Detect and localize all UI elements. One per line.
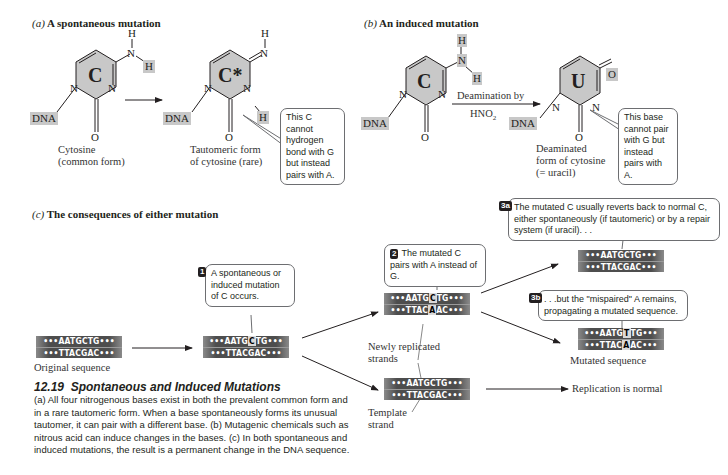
cytosine-caption: Cytosine (common form)	[58, 144, 125, 168]
figure-title: Spontaneous and Induced Mutations	[71, 380, 281, 394]
atom-h: H	[261, 28, 269, 39]
caption-line: Cytosine	[58, 144, 125, 156]
replication-normal-label: Replication is normal	[572, 383, 662, 395]
strand-bottom: •••TTACAAC•••	[384, 304, 470, 315]
tautomer-caption: Tautomeric form of cytosine (rare)	[190, 144, 262, 168]
mutated-base: C	[429, 293, 437, 303]
caption-line: form of cytosine	[536, 155, 605, 167]
atom-h-highlight: H	[143, 60, 155, 73]
strand-top: •••AATGCTG•••	[384, 378, 470, 389]
dna-tag: DNA	[163, 112, 191, 125]
panel-a-label: (a)	[32, 17, 45, 29]
dna-strand-mutated: •••AATGTTG••• •••TTACAAC•••	[578, 328, 664, 350]
atom-n: N	[592, 102, 600, 113]
strand-bottom: •••TTACGAC•••	[384, 389, 470, 400]
label-line: Newly replicated	[368, 341, 440, 353]
atom-o-highlight: O	[606, 68, 618, 81]
atom-n: N	[204, 83, 212, 94]
label-line: Template	[368, 407, 407, 419]
atom-n: N	[243, 83, 251, 94]
panel-a-title: (a) A spontaneous mutation	[32, 17, 161, 29]
figure-number: 12.19	[34, 380, 64, 394]
mutated-base: C	[248, 336, 256, 346]
panel-a-title-text: A spontaneous mutation	[47, 17, 161, 29]
caption-line: Deaminated	[536, 143, 605, 155]
ring-letter-c: C	[417, 70, 431, 93]
atom-n: N	[108, 83, 116, 94]
subscript-2: 2	[493, 114, 497, 122]
strand-bottom: •••TTACGAC•••	[203, 347, 289, 358]
ring-letter-c: C	[88, 64, 102, 87]
arrow-label-deamination: Deamination by	[457, 90, 524, 102]
figure-caption: 12.19 Spontaneous and Induced Mutations …	[34, 380, 354, 457]
callout-step-3b: 3b . . .but the "mispaired" A remains, p…	[538, 290, 688, 321]
newly-replicated-label: Newly replicated strands	[368, 341, 440, 365]
strand-bottom: •••TTACGAC•••	[36, 347, 122, 358]
ring-letter-u: U	[571, 70, 585, 93]
atom-o: O	[225, 132, 233, 143]
arrow-label-hno2: HNO2	[470, 108, 496, 124]
dna-strand-template: •••AATGCTG••• •••TTACGAC•••	[384, 378, 470, 400]
strand-top: •••AATGCTG•••	[578, 250, 664, 261]
caption-line: Tautomeric form	[190, 144, 262, 156]
atom-n-highlight: N	[457, 54, 467, 67]
panel-b-label: (b)	[364, 17, 377, 29]
callout-step-3a: 3a The mutated C usually reverts back to…	[508, 198, 720, 241]
panel-c-title-text: The consequences of either mutation	[47, 208, 219, 220]
step-number-badge: 2	[390, 249, 398, 259]
strand-top: •••AATGCTG•••	[384, 293, 470, 304]
callout-uracil: This base cannot pair with G but instead…	[618, 108, 678, 185]
atom-h-highlight: H	[257, 111, 269, 124]
label-line: strands	[368, 353, 440, 365]
strand-top: •••AATGCTG•••	[203, 336, 289, 347]
caption-line: (= uracil)	[536, 167, 605, 179]
seq-part: •••AATG	[209, 336, 248, 346]
strand-bottom: •••TTACAAC•••	[578, 339, 664, 350]
atom-n: N	[260, 48, 268, 59]
template-strand-label: Template strand	[368, 407, 407, 431]
panel-c-title: (c) The consequences of either mutation	[32, 208, 218, 220]
strand-bottom: •••TTACGAC•••	[578, 261, 664, 272]
figure-caption-body: (a) All four nitrogenous bases exist in …	[34, 394, 354, 457]
seq-part: •••TTAC	[585, 340, 623, 350]
ring-letter-c-star: C*	[218, 64, 242, 87]
mutated-sequence-label: Mutated sequence	[570, 355, 646, 367]
atom-n: N	[70, 83, 78, 94]
atom-n: N	[438, 89, 446, 100]
dna-strand-step-1: •••AATGCTG••• •••TTACGAC•••	[203, 336, 289, 358]
callout-step-2: 2The mutated C pairs with A instead of G…	[384, 244, 486, 287]
step-number-badge: 1	[198, 267, 206, 277]
atom-o: O	[91, 132, 99, 143]
caption-line: of cytosine (rare)	[190, 156, 262, 168]
strand-top: •••AATGTTG•••	[578, 328, 664, 339]
callout-step-1: 1 A spontaneous or induced mutation of C…	[205, 264, 295, 307]
dna-tag: DNA	[30, 112, 58, 125]
seq-part: TG•••	[631, 328, 658, 338]
atom-n: N	[552, 102, 560, 113]
seq-part: AC•••	[436, 305, 463, 315]
step-3a-text: The mutated C usually reverts back to no…	[514, 202, 710, 235]
hno-text: HNO	[470, 108, 493, 119]
atom-h: H	[128, 28, 136, 39]
seq-part: •••AATG	[390, 293, 429, 303]
callout-tautomer: This C cannot hydrogen bond with G but i…	[280, 108, 345, 185]
atom-h-highlight: H	[472, 72, 482, 85]
strand-top: •••AATGCTG•••	[36, 336, 122, 347]
label-line: strand	[368, 419, 407, 431]
panel-b-title: (b) An induced mutation	[364, 17, 479, 29]
panel-b-title-text: An induced mutation	[379, 17, 479, 29]
original-sequence-label: Original sequence	[34, 362, 110, 374]
seq-part: •••TTAC	[391, 305, 429, 315]
atom-n: N	[399, 89, 407, 100]
dna-tag: DNA	[509, 117, 537, 130]
uracil-caption: Deaminated form of cytosine (= uracil)	[536, 143, 605, 179]
seq-part: TG•••	[256, 336, 283, 346]
step-number-badge: 3b	[529, 293, 542, 303]
step-3b-text: . . .but the "mispaired" A remains, prop…	[544, 294, 678, 316]
atom-n: N	[127, 48, 135, 59]
atom-o: O	[575, 132, 583, 143]
seq-part: AC•••	[630, 340, 657, 350]
step-number-badge: 3a	[499, 201, 512, 211]
dna-strand-original: •••AATGCTG••• •••TTACGAC•••	[36, 336, 122, 358]
dna-tag: DNA	[361, 117, 389, 130]
